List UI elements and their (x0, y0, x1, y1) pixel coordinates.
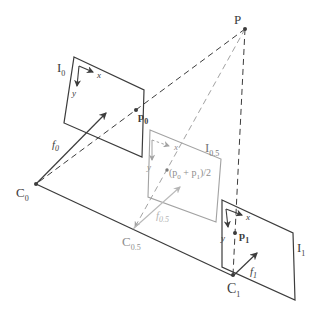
axis-y-I0 (77, 66, 79, 86)
axis-x-label-I0: x (96, 70, 101, 80)
focal-vector-f0 (36, 113, 106, 184)
label-C1: C1 (227, 281, 240, 299)
stereo-view-interpolation-diagram: P I0 I0.5 I1 f0 f0.5 f1 C0 C0.5 C1 p0 p1… (0, 0, 323, 318)
image-plane-I0 (64, 57, 144, 157)
ray-P-to-C05 (135, 29, 245, 227)
point-p1-dot (233, 231, 237, 235)
axis-x-label-I05: x (173, 142, 178, 152)
axis-y-label-I0: y (71, 88, 76, 98)
label-I1: I1 (297, 240, 305, 258)
axis-x-label-I1: x (245, 212, 250, 222)
label-C0: C0 (16, 185, 29, 203)
axis-x-I05 (152, 140, 169, 146)
camera-center-C0-dot (34, 182, 38, 186)
label-C05: C0.5 (122, 234, 141, 252)
axis-x-I1 (226, 209, 242, 215)
axis-y-label-I1: y (220, 233, 225, 243)
label-f1: f1 (250, 265, 257, 280)
label-f05: f0.5 (156, 209, 169, 224)
label-I05: I0.5 (205, 140, 219, 158)
axis-y-label-I05: y (146, 162, 151, 172)
label-p1: p1 (239, 229, 249, 245)
axis-x-I0 (79, 66, 93, 72)
figure-canvas: P I0 I0.5 I1 f0 f0.5 f1 C0 C0.5 C1 p0 p1… (0, 0, 323, 318)
axis-y-I1 (226, 209, 228, 227)
label-midpoint: (p0 + p1)/2 (169, 167, 211, 181)
focal-vector-f05 (133, 187, 180, 229)
baseline-C0-C1 (36, 184, 233, 276)
label-I0: I0 (57, 60, 65, 78)
label-P: P (234, 12, 241, 27)
label-f0: f0 (52, 138, 59, 153)
camera-center-C1-dot (231, 273, 235, 277)
point-P-dot (243, 27, 247, 31)
ray-P-to-C0 (36, 29, 245, 184)
